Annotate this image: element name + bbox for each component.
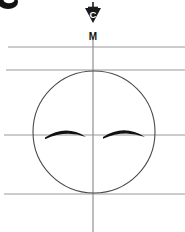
midline-label-m: M (89, 31, 97, 42)
c-triangle-marker-icon: C (85, 2, 101, 23)
figure-canvas: C M (0, 0, 185, 232)
corner-bullet-icon (0, 0, 18, 9)
marker-letter-c: C (90, 9, 97, 20)
diagram-svg: C M (0, 0, 185, 232)
head-circle-outline (33, 71, 155, 193)
